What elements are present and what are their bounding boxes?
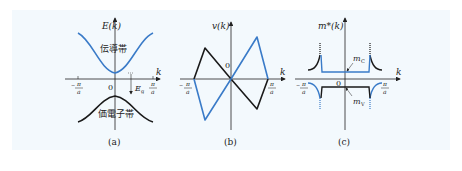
svg-text:a: a <box>270 88 274 95</box>
mv-curve <box>321 87 370 98</box>
mass-curve-right-lower <box>370 83 382 98</box>
tick-left-label: π <box>76 80 82 87</box>
gap-label: E <box>134 84 141 93</box>
k-axis-label: k <box>280 67 285 77</box>
origin-label: 0 <box>108 83 113 92</box>
tick-right-label: π <box>382 80 388 87</box>
mc-label: m <box>353 54 361 63</box>
panel-b: v(k) k 0 − π a π a (b) <box>179 21 285 147</box>
origin-label: 0 <box>225 61 230 70</box>
caption-a: (a) <box>108 137 120 147</box>
mass-curve-right-upper <box>370 55 382 70</box>
panel-a: E(k) k 0 伝導帯 価電子帯 E g − π a π a (a) <box>65 18 161 147</box>
svg-text:a: a <box>383 88 387 95</box>
tick-right-label: π <box>269 80 275 87</box>
valence-band-label: 価電子帯 <box>98 108 134 119</box>
mass-curve-left-lower <box>308 83 320 98</box>
svg-text:a: a <box>186 88 190 95</box>
svg-text:C: C <box>361 58 365 64</box>
band-structure-figure: E(k) k 0 伝導帯 価電子帯 E g − π a π a (a) v(k)… <box>0 0 462 171</box>
svg-text:−: − <box>296 82 300 88</box>
svg-text:V: V <box>360 101 365 107</box>
svg-text:a: a <box>302 88 306 95</box>
mass-curve-left-upper <box>308 55 320 70</box>
origin-label: 0 <box>336 79 341 88</box>
caption-b: (b) <box>224 137 237 147</box>
svg-text:−: − <box>71 82 75 88</box>
conduction-band-label: 伝導帯 <box>100 43 127 54</box>
tick-left-label: π <box>301 80 307 87</box>
k-axis-label: k <box>156 67 161 77</box>
svg-text:−: − <box>179 82 183 88</box>
svg-text:a: a <box>151 88 155 95</box>
k-axis-label: k <box>396 67 401 77</box>
mv-label: m <box>353 97 361 106</box>
tick-right-label: π <box>150 80 156 87</box>
mass-axis-label: m*(k) <box>318 21 344 31</box>
svg-text:g: g <box>141 88 145 95</box>
panel-c: m*(k) k 0 m C m V − π a π a (c) <box>295 18 401 147</box>
caption-c: (c) <box>338 137 350 147</box>
velocity-axis-label: v(k) <box>212 21 230 31</box>
svg-text:a: a <box>77 88 81 95</box>
tick-left-label: π <box>185 80 191 87</box>
energy-axis-label: E(k) <box>101 21 122 31</box>
